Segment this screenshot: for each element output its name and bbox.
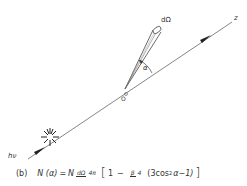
formula-exponent: 2 [169, 170, 172, 176]
fraction-numerator: dΩ [76, 169, 86, 177]
photon-arrow-icon [34, 147, 45, 155]
fraction-beta: β 4 [130, 169, 142, 177]
panel-label: (b) [16, 169, 27, 178]
fraction-denominator: 4 [137, 169, 141, 176]
fraction-numerator: β [130, 169, 136, 177]
close-bracket: ] [195, 168, 200, 178]
formula-minus: − [117, 169, 124, 178]
formula-one: 1 [108, 169, 113, 178]
formula-equals: = [59, 169, 66, 178]
open-bracket: [ [101, 168, 106, 178]
starburst-icon [41, 128, 59, 146]
z-axis-line [28, 22, 232, 159]
solid-angle-cone [125, 25, 162, 89]
origin-label: O [121, 95, 126, 102]
fraction-solid-angle: dΩ 4π [76, 169, 96, 177]
fraction-denominator: 4π [88, 169, 95, 176]
formula-coef: N [68, 169, 74, 178]
angular-distribution-formula: (b) N (α) = N dΩ 4π [ 1 − β 4 (3cos 2 α−… [16, 163, 247, 183]
photoemission-diagram: z O dΩ α hν [0, 0, 247, 186]
z-axis-label: z [233, 14, 238, 22]
angle-label: α [143, 64, 148, 72]
formula-paren-b: α−1) [173, 169, 193, 178]
z-axis-arrow-icon [200, 35, 211, 43]
solid-angle-label: dΩ [161, 16, 171, 24]
formula-paren-a: (3cos [147, 169, 169, 178]
formula-lhs: N (α) [37, 169, 57, 178]
photon-label: hν [8, 152, 16, 160]
